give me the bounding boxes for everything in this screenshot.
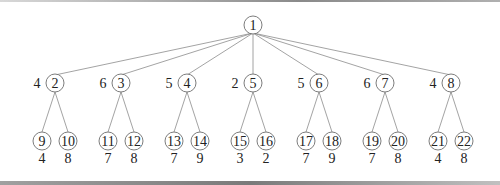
- tree-node-16: 16: [257, 132, 275, 150]
- node-label: 13: [167, 134, 181, 149]
- tree-node-17: 17: [297, 132, 315, 150]
- node-weight: 2: [232, 76, 239, 91]
- tree-node-6: 6: [310, 74, 328, 92]
- tree-edge: [108, 92, 121, 132]
- tree-node-18: 18: [323, 132, 341, 150]
- tree-edge: [438, 92, 451, 132]
- leaf-weight: 7: [105, 151, 112, 166]
- tree-edge: [253, 33, 319, 75]
- tree-node-5: 5: [244, 74, 262, 92]
- node-weight: 5: [166, 76, 173, 91]
- tree-node-13: 13: [165, 132, 183, 150]
- tree-edge: [55, 92, 68, 132]
- node-weight: 4: [430, 76, 437, 91]
- node-label: 5: [250, 76, 257, 91]
- node-label: 8: [448, 76, 455, 91]
- node-weight: 4: [34, 76, 41, 91]
- tree-edge: [253, 33, 385, 75]
- tree-edge: [174, 92, 187, 132]
- tree-node-4: 4: [178, 74, 196, 92]
- leaf-weight: 8: [461, 151, 468, 166]
- tree-edge: [372, 92, 385, 132]
- leaf-weight: 4: [39, 151, 46, 166]
- tree-node-19: 19: [363, 132, 381, 150]
- tree-node-11: 11: [99, 132, 117, 150]
- node-label: 4: [184, 76, 191, 91]
- leaf-weight: 8: [395, 151, 402, 166]
- tree-node-12: 12: [125, 132, 143, 150]
- tree-node-22: 22: [455, 132, 473, 150]
- node-label: 19: [365, 134, 379, 149]
- node-label: 15: [233, 134, 247, 149]
- node-weight: 6: [364, 76, 371, 91]
- leaf-weight: 4: [435, 151, 442, 166]
- tree-node-14: 14: [191, 132, 209, 150]
- leaf-weight: 7: [369, 151, 376, 166]
- leaf-weight: 7: [171, 151, 178, 166]
- leaf-weight: 8: [131, 151, 138, 166]
- tree-edge: [385, 92, 398, 132]
- tree-edge: [187, 33, 253, 75]
- leaf-weight: 8: [65, 151, 72, 166]
- node-label: 6: [316, 76, 323, 91]
- node-label: 3: [118, 76, 125, 91]
- tree-edge: [121, 92, 134, 132]
- tree-edge: [306, 92, 319, 132]
- tree-edge: [451, 92, 464, 132]
- leaf-weight: 2: [263, 151, 270, 166]
- tree-node-9: 9: [33, 132, 51, 150]
- node-label: 9: [39, 134, 46, 149]
- node-label: 7: [382, 76, 389, 91]
- tree-edge: [187, 92, 200, 132]
- tree-node-7: 7: [376, 74, 394, 92]
- node-label: 22: [457, 134, 471, 149]
- tree-node-8: 8: [442, 74, 460, 92]
- node-label: 18: [325, 134, 339, 149]
- tree-edge: [253, 33, 451, 75]
- bottom-border: [0, 181, 500, 185]
- leaf-weight: 3: [237, 151, 244, 166]
- node-label: 11: [101, 134, 114, 149]
- node-label: 1: [250, 18, 257, 33]
- node-label: 16: [259, 134, 273, 149]
- tree-diagram: 1243645526576849410811712813714915316217…: [0, 0, 500, 185]
- node-label: 2: [52, 76, 59, 91]
- node-label: 20: [391, 134, 405, 149]
- tree-node-15: 15: [231, 132, 249, 150]
- tree-edge: [55, 33, 253, 75]
- node-label: 21: [431, 134, 445, 149]
- tree-node-21: 21: [429, 132, 447, 150]
- tree-node-3: 3: [112, 74, 130, 92]
- tree-edge: [121, 33, 253, 75]
- tree-edge: [319, 92, 332, 132]
- tree-node-1: 1: [244, 16, 262, 34]
- tree-node-10: 10: [59, 132, 77, 150]
- node-label: 17: [299, 134, 313, 149]
- tree-node-2: 2: [46, 74, 64, 92]
- tree-edge: [240, 92, 253, 132]
- node-label: 10: [61, 134, 75, 149]
- leaf-weight: 9: [197, 151, 204, 166]
- tree-node-20: 20: [389, 132, 407, 150]
- tree-edge: [42, 92, 55, 132]
- node-label: 14: [193, 134, 207, 149]
- node-label: 12: [127, 134, 141, 149]
- tree-edge: [253, 92, 266, 132]
- leaf-weight: 7: [303, 151, 310, 166]
- node-weight: 5: [298, 76, 305, 91]
- node-weight: 6: [100, 76, 107, 91]
- leaf-weight: 9: [329, 151, 336, 166]
